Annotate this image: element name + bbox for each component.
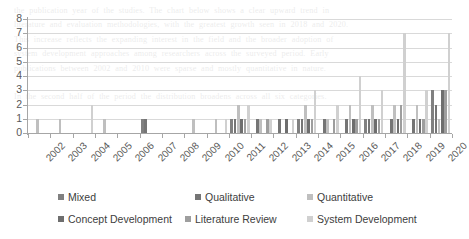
bar xyxy=(307,119,310,133)
legend-label: Mixed xyxy=(68,191,96,203)
x-tick-mark xyxy=(95,134,96,138)
y-axis-labels: 012345678 xyxy=(0,19,22,133)
legend-swatch-icon xyxy=(58,216,64,222)
bar xyxy=(215,119,218,133)
bar xyxy=(301,119,304,133)
x-tick-label: 2015 xyxy=(334,140,358,164)
legend-label: System Development xyxy=(317,213,417,225)
legend-item[interactable]: Qualitative xyxy=(195,191,255,203)
bar xyxy=(416,105,419,134)
bar xyxy=(422,119,425,133)
bar xyxy=(297,119,300,133)
bar xyxy=(400,105,403,134)
legend-swatch-icon xyxy=(58,194,64,200)
bar xyxy=(441,90,444,133)
bar xyxy=(355,119,358,133)
x-tick-label: 2019 xyxy=(423,140,447,164)
x-tick-label: 2005 xyxy=(111,140,135,164)
bar xyxy=(256,119,259,133)
bar xyxy=(240,119,243,133)
bar xyxy=(359,76,362,133)
bar xyxy=(230,119,233,133)
x-tick-mark xyxy=(251,134,252,138)
x-tick-mark xyxy=(207,134,208,138)
x-tick-mark xyxy=(73,134,74,138)
x-axis-line xyxy=(27,133,452,134)
legend-row-top: MixedQualitativeQuantitative xyxy=(0,186,458,208)
legend-label: Quantitative xyxy=(317,191,373,203)
y-tick-label: 6 xyxy=(2,41,22,53)
legend-item[interactable]: Mixed xyxy=(58,191,96,203)
bar xyxy=(91,105,94,134)
bar xyxy=(352,119,355,133)
y-tick-label: 5 xyxy=(2,55,22,67)
x-tick-label: 2014 xyxy=(311,140,335,164)
x-tick-label: 2008 xyxy=(178,140,202,164)
legend-label: Literature Review xyxy=(195,213,277,225)
bar xyxy=(368,119,371,133)
x-tick-label: 2012 xyxy=(267,140,291,164)
bar xyxy=(225,119,228,133)
y-tick-label: 1 xyxy=(2,112,22,124)
bar xyxy=(378,119,381,133)
legend-item[interactable]: Concept Development xyxy=(58,213,172,225)
bar xyxy=(237,105,240,134)
x-tick-label: 2016 xyxy=(356,140,380,164)
legend-item[interactable]: Literature Review xyxy=(185,213,277,225)
bar xyxy=(364,119,367,133)
x-tick-mark xyxy=(340,134,341,138)
x-tick-label: 2011 xyxy=(244,140,267,163)
chart-legend: MixedQualitativeQuantitative Concept Dev… xyxy=(0,186,458,236)
legend-swatch-icon xyxy=(185,216,191,222)
plot-area: 012345678 200220032004200520062007200820… xyxy=(0,0,458,182)
bar xyxy=(192,119,195,133)
bar xyxy=(304,105,307,134)
bar xyxy=(336,105,339,134)
bar xyxy=(292,119,295,133)
x-tick-mark xyxy=(184,134,185,138)
x-tick-mark xyxy=(296,134,297,138)
bar xyxy=(285,119,288,133)
bar xyxy=(448,33,451,133)
bar xyxy=(326,119,329,133)
bar xyxy=(425,90,428,133)
y-tick-label: 8 xyxy=(2,12,22,24)
bar xyxy=(438,119,441,133)
bar xyxy=(314,90,317,133)
x-tick-label: 2017 xyxy=(378,140,402,164)
bar xyxy=(266,119,269,133)
x-tick-label: 2013 xyxy=(289,140,313,164)
bar xyxy=(345,119,348,133)
legend-swatch-icon xyxy=(307,194,313,200)
x-tick-mark xyxy=(117,134,118,138)
bars-layer xyxy=(28,19,452,133)
x-tick-label: 2003 xyxy=(66,140,90,164)
bar xyxy=(278,119,281,133)
x-tick-mark xyxy=(162,134,163,138)
x-tick-mark xyxy=(385,134,386,138)
bar xyxy=(403,33,406,133)
bar xyxy=(393,105,396,134)
bar xyxy=(234,119,237,133)
legend-item[interactable]: Quantitative xyxy=(307,191,373,203)
bar xyxy=(349,105,352,134)
bar xyxy=(435,105,438,134)
bar xyxy=(103,119,106,133)
x-tick-label: 2020 xyxy=(445,140,469,164)
x-tick-label: 2004 xyxy=(88,140,112,164)
x-tick-label: 2010 xyxy=(222,140,246,164)
bar xyxy=(397,119,400,133)
bar xyxy=(36,119,39,133)
bar xyxy=(381,90,384,133)
legend-row-bottom: Concept DevelopmentLiterature ReviewSyst… xyxy=(0,208,458,230)
x-tick-label: 2018 xyxy=(401,140,425,164)
bar xyxy=(311,119,314,133)
x-tick-label: 2002 xyxy=(44,140,68,164)
bar xyxy=(412,119,415,133)
y-tick-label: 2 xyxy=(2,98,22,110)
legend-item[interactable]: System Development xyxy=(307,213,417,225)
x-tick-mark xyxy=(318,134,319,138)
y-tick-label: 0 xyxy=(2,126,22,138)
x-tick-mark xyxy=(430,134,431,138)
